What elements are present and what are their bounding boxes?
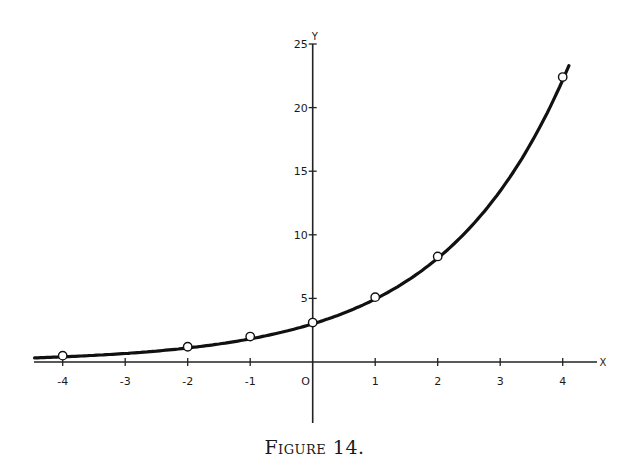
x-axis-name: X — [600, 357, 607, 368]
x-tick-label: -1 — [245, 375, 256, 388]
x-tick-label: 4 — [559, 375, 566, 388]
y-axis-name: Y — [311, 31, 319, 42]
x-tick-label: -3 — [120, 375, 131, 388]
y-tick-label: 25 — [294, 38, 308, 51]
x-tick-label: 2 — [434, 375, 441, 388]
data-point-marker — [309, 318, 317, 326]
x-tick-label: -2 — [182, 375, 193, 388]
x-tick-label: -4 — [57, 375, 68, 388]
y-tick-label: 5 — [301, 292, 308, 305]
data-point-marker — [246, 332, 254, 340]
x-tick-label: 1 — [372, 375, 379, 388]
x-tick-label: 3 — [497, 375, 504, 388]
data-point-marker — [59, 351, 67, 359]
y-tick-label: 15 — [294, 165, 308, 178]
y-axis: 510152025Y — [294, 31, 319, 423]
figure-caption: Figure 14. — [0, 436, 629, 458]
data-point-marker — [559, 73, 567, 81]
x-tick-label: O — [301, 375, 310, 388]
data-point-marker — [434, 252, 442, 260]
y-tick-label: 10 — [294, 229, 308, 242]
chart: -4-3-2-1O1234X 510152025Y — [0, 0, 629, 464]
x-axis: -4-3-2-1O1234X — [34, 357, 607, 388]
data-point-marker — [371, 293, 379, 301]
y-tick-label: 20 — [294, 102, 308, 115]
data-point-marker — [184, 343, 192, 351]
